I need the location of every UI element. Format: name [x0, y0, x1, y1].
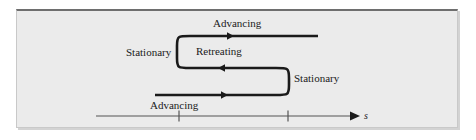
label-retreating: Retreating [196, 45, 242, 57]
direction-arrowheads [218, 32, 234, 99]
s-axis-arrowhead [350, 112, 360, 121]
label-stationary-left: Stationary [126, 46, 171, 58]
arrowhead-top-right [227, 32, 234, 40]
label-stationary-right: Stationary [294, 72, 339, 84]
right-u-turn [276, 68, 289, 95]
label-s-axis: s [364, 110, 368, 122]
left-u-turn [177, 36, 190, 68]
figure-container: Advancing Retreating Stationary Stationa… [0, 0, 476, 140]
s-axis-group [96, 111, 352, 122]
label-advancing-bottom: Advancing [150, 99, 198, 111]
label-advancing-top: Advancing [213, 17, 261, 29]
arrowhead-middle-left [218, 64, 225, 72]
arrowhead-bottom-right [221, 91, 228, 99]
